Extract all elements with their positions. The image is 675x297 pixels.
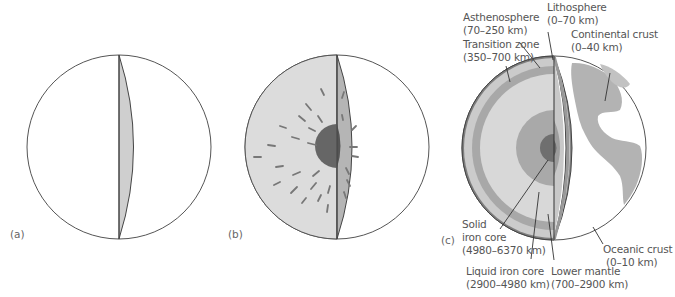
label-name: Solid (462, 218, 546, 231)
label-name: Transition zone (463, 38, 539, 51)
label-lithosphere: Lithosphere (0–70 km) (547, 1, 607, 27)
label-name: iron core (462, 231, 546, 244)
label-liquid-iron-core: Liquid iron core (2900–4980 km) (466, 265, 550, 291)
label-range: (350–700 km) (463, 51, 539, 64)
label-oceanic-crust: Oceanic crust (0–10 km) (603, 243, 672, 269)
label-range: (2900–4980 km) (466, 278, 550, 291)
label-range: (700–2900 km) (551, 278, 628, 291)
label-name: Liquid iron core (466, 265, 550, 278)
earth-interior-figure: (a) (b) (c) Lithosphere (0–70 km) Asthen… (0, 0, 675, 297)
label-name: Lithosphere (547, 1, 607, 14)
panel-label-b: (b) (228, 228, 243, 240)
panel-b-sphere (245, 55, 429, 239)
label-transition-zone: Transition zone (350–700 km) (463, 38, 539, 64)
label-continental-crust: Continental crust (0–40 km) (571, 28, 658, 54)
panel-label-c: (c) (441, 234, 455, 246)
panel-a-sphere (27, 55, 211, 239)
panel-label-a: (a) (10, 228, 25, 240)
label-range: (0–10 km) (603, 256, 672, 269)
label-range: (0–40 km) (571, 41, 658, 54)
label-asthenosphere: Asthenosphere (70–250 km) (463, 11, 539, 37)
label-range: (70–250 km) (463, 24, 539, 37)
label-name: Oceanic crust (603, 243, 672, 256)
label-range: (4980–6370 km) (462, 244, 546, 257)
label-solid-iron-core: Solid iron core (4980–6370 km) (462, 218, 546, 257)
label-name: Continental crust (571, 28, 658, 41)
label-name: Asthenosphere (463, 11, 539, 24)
label-range: (0–70 km) (547, 14, 607, 27)
